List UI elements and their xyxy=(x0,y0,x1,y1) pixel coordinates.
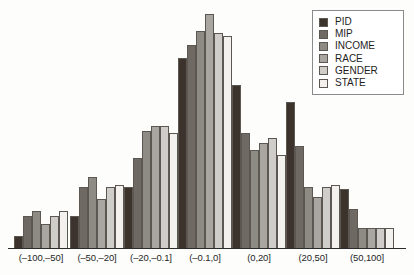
bar xyxy=(313,197,322,248)
legend-item-label: INCOME xyxy=(335,41,375,51)
legend-item-label: PID xyxy=(335,17,352,27)
bar xyxy=(277,155,286,248)
legend-item-race[interactable]: RACE xyxy=(319,53,399,65)
bar-group xyxy=(14,4,68,248)
bar-group xyxy=(124,4,178,248)
bar-group xyxy=(178,4,232,248)
legend-swatch-icon xyxy=(319,30,328,39)
bar xyxy=(385,228,394,248)
bar xyxy=(349,209,358,248)
legend-item-label: GENDER xyxy=(335,66,378,76)
legend-item-income[interactable]: INCOME xyxy=(319,40,399,52)
x-axis-tick-label: (–0.1,0] xyxy=(189,252,220,263)
bar xyxy=(268,138,277,248)
bar xyxy=(340,189,349,248)
x-axis-tick-label: (–50,–20] xyxy=(77,252,116,263)
bar xyxy=(23,216,32,248)
bar xyxy=(214,33,223,248)
chart-legend: PIDMIPINCOMERACEGENDERSTATE xyxy=(312,10,404,95)
bar-group xyxy=(70,4,124,248)
bar xyxy=(169,133,178,248)
legend-swatch-icon xyxy=(319,42,328,51)
bar xyxy=(88,177,97,248)
bar xyxy=(358,228,367,248)
bar xyxy=(322,187,331,248)
bar xyxy=(41,224,50,248)
bar xyxy=(133,158,142,248)
bar xyxy=(250,150,259,248)
bar xyxy=(50,216,59,248)
bar xyxy=(331,185,340,248)
grouped-bar-chart: (–100,–50](–50,–20](–20,–0.1](–0.1,0](0,… xyxy=(0,0,414,275)
x-axis-tick-label: (0,20] xyxy=(247,252,271,263)
bar xyxy=(97,199,106,248)
x-axis-tick-labels: (–100,–50](–50,–20](–20,–0.1](–0.1,0](0,… xyxy=(0,252,414,272)
x-axis-tick-label: (–100,–50] xyxy=(19,252,63,263)
bar xyxy=(32,211,41,248)
bar xyxy=(259,143,268,248)
bar xyxy=(70,216,79,248)
legend-swatch-icon xyxy=(319,18,328,27)
bar xyxy=(286,102,295,248)
bar xyxy=(205,14,214,248)
legend-item-label: STATE xyxy=(335,78,366,88)
bar xyxy=(241,133,250,248)
legend-item-mip[interactable]: MIP xyxy=(319,28,399,40)
legend-item-pid[interactable]: PID xyxy=(319,16,399,28)
bar xyxy=(160,126,169,248)
bar xyxy=(187,45,196,248)
bar xyxy=(304,187,313,248)
legend-swatch-icon xyxy=(319,66,328,75)
bar xyxy=(79,187,88,248)
bar xyxy=(196,31,205,248)
legend-item-label: RACE xyxy=(335,54,363,64)
bar xyxy=(376,228,385,248)
bar xyxy=(142,131,151,248)
legend-item-gender[interactable]: GENDER xyxy=(319,65,399,77)
bar xyxy=(59,211,68,248)
bar xyxy=(14,236,23,248)
x-axis-tick-label: (–20,–0.1] xyxy=(130,252,172,263)
x-axis-line xyxy=(8,248,406,249)
bar xyxy=(367,228,376,248)
legend-swatch-icon xyxy=(319,54,328,63)
legend-item-state[interactable]: STATE xyxy=(319,77,399,89)
bar-group xyxy=(232,4,286,248)
legend-swatch-icon xyxy=(319,79,328,88)
x-axis-tick-label: (20,50] xyxy=(299,252,328,263)
bar xyxy=(124,187,133,248)
bar xyxy=(295,146,304,248)
bar xyxy=(178,58,187,248)
legend-item-label: MIP xyxy=(335,29,353,39)
x-axis-tick-label: (50,100] xyxy=(350,252,384,263)
bar xyxy=(106,187,115,248)
bar xyxy=(115,185,124,248)
bar xyxy=(223,36,232,248)
bar xyxy=(232,85,241,248)
bar xyxy=(151,126,160,248)
